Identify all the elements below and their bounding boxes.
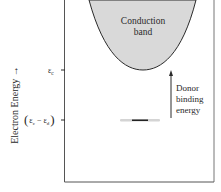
band-label-line2: band [134, 27, 153, 37]
donor-level-label: (εc−εd) [24, 112, 55, 127]
ec-label: εc [48, 66, 54, 76]
y-axis-label: Electron Energy → [9, 66, 20, 144]
band-diagram: Conduction band Electron Energy → εc (εc… [0, 0, 221, 192]
band-label-line1: Conduction [121, 16, 166, 26]
donor-level [120, 119, 160, 122]
arrow-label-line3: energy [176, 105, 201, 115]
arrow-label-line2: binding [176, 94, 204, 104]
binding-energy-arrow [169, 70, 173, 118]
arrow-label-line1: Donor [176, 83, 199, 93]
